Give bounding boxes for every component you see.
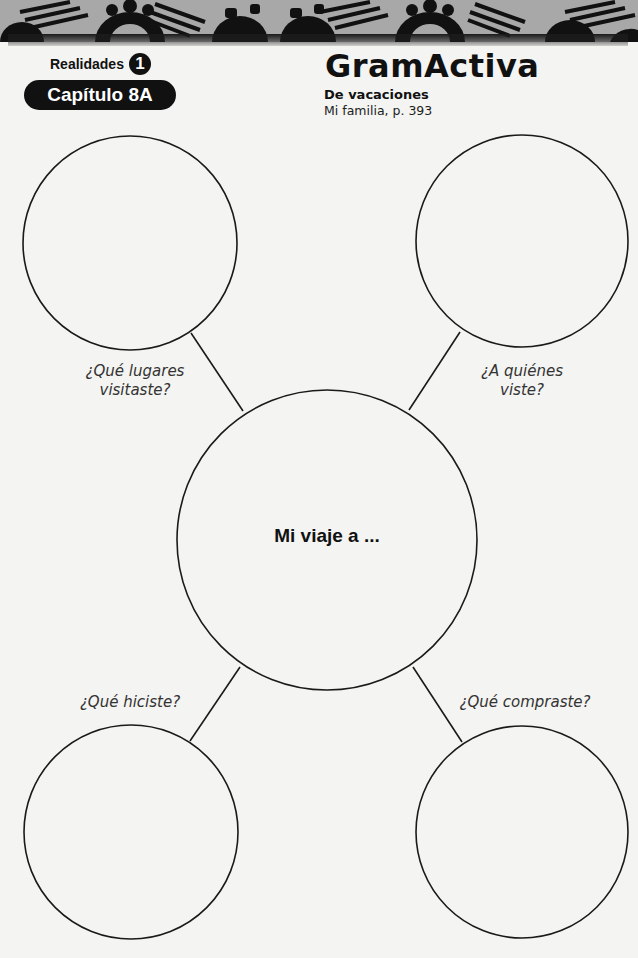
prompt-did: ¿Qué hiciste? <box>70 693 190 712</box>
prompt-places-line1: ¿Qué lugares <box>70 362 200 381</box>
prompt-people: ¿A quiénes viste? <box>462 362 582 400</box>
answer-area-did[interactable] <box>24 725 238 939</box>
prompt-places: ¿Qué lugares visitaste? <box>70 362 200 400</box>
prompt-people-line1: ¿A quiénes <box>462 362 582 381</box>
prompt-bought: ¿Qué compraste? <box>450 693 600 712</box>
connector-bottom-left <box>190 667 240 741</box>
prompt-places-line2: visitaste? <box>70 381 200 400</box>
answer-area-places[interactable] <box>23 136 237 350</box>
connector-top-right <box>409 332 460 410</box>
answer-area-bought[interactable] <box>416 726 628 938</box>
prompt-people-line2: viste? <box>462 381 582 400</box>
answer-area-people[interactable] <box>416 135 628 347</box>
center-topic: Mi viaje a ... <box>227 525 427 547</box>
